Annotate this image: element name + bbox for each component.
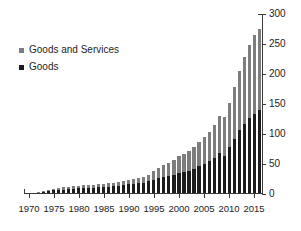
- bar-stack: [157, 168, 160, 194]
- bar-segment-goods-and-services: [182, 154, 185, 172]
- bar-stack: [203, 137, 206, 194]
- bar-stack: [213, 125, 216, 194]
- bar-segment-goods-and-services: [223, 117, 226, 155]
- bar-segment-goods-and-services: [192, 147, 195, 169]
- plot-area: [26, 14, 262, 194]
- y-axis-tick: [262, 134, 266, 135]
- x-axis-tick: [54, 194, 55, 198]
- bar-stack: [182, 154, 185, 194]
- bar-stack: [152, 171, 155, 194]
- y-axis-tick-label: 200: [269, 69, 286, 79]
- bar-stack: [233, 87, 236, 194]
- bar-segment-goods-and-services: [258, 29, 261, 110]
- bar-segment-goods: [182, 172, 185, 194]
- y-axis-tick: [262, 44, 266, 45]
- x-axis-tick-label: 1995: [143, 204, 164, 214]
- x-axis-tick: [229, 194, 230, 198]
- legend-swatch-icon: [19, 48, 24, 53]
- x-axis-tick-label: 1990: [118, 204, 139, 214]
- bar-segment-goods: [152, 180, 155, 194]
- bar-segment-goods: [243, 124, 246, 194]
- y-axis-tick: [262, 14, 266, 15]
- bar-segment-goods: [248, 118, 251, 194]
- bar-stack: [218, 116, 221, 194]
- x-axis-tick: [29, 194, 30, 198]
- bar-segment-goods-and-services: [238, 71, 241, 130]
- bar-segment-goods-and-services: [248, 45, 251, 118]
- y-axis-tick: [262, 194, 266, 195]
- bar-stack: [137, 178, 140, 194]
- bar-segment-goods: [238, 130, 241, 194]
- bar-segment-goods: [208, 161, 211, 194]
- bar-stack: [127, 180, 130, 194]
- bar-segment-goods-and-services: [197, 142, 200, 166]
- bar-segment-goods-and-services: [228, 103, 231, 147]
- y-axis-tick-label: 150: [269, 99, 286, 109]
- bar-segment-goods-and-services: [208, 132, 211, 161]
- bar-segment-goods: [228, 147, 231, 194]
- bar-segment-goods: [187, 171, 190, 194]
- legend-item-label: Goods and Services: [29, 45, 119, 55]
- bar-stack: [162, 165, 165, 194]
- x-axis-tick: [79, 194, 80, 198]
- bar-stack: [223, 117, 226, 194]
- x-axis-tick: [254, 194, 255, 198]
- bar-segment-goods-and-services: [243, 57, 246, 124]
- bar-stack: [177, 156, 180, 194]
- bar-segment-goods-and-services: [203, 137, 206, 164]
- bar-segment-goods: [233, 139, 236, 194]
- bar-segment-goods: [167, 176, 170, 194]
- bar-segment-goods-and-services: [253, 35, 256, 114]
- bar-segment-goods-and-services: [167, 163, 170, 176]
- bar-segment-goods: [172, 175, 175, 194]
- x-axis-tick-label: 1985: [93, 204, 114, 214]
- bar-stack: [253, 35, 256, 194]
- bar-segment-goods-and-services: [218, 116, 221, 153]
- bars-layer: [26, 14, 262, 194]
- bar-segment-goods-and-services: [157, 168, 160, 178]
- bar-stack: [132, 179, 135, 194]
- y-axis-tick: [262, 74, 266, 75]
- y-axis-tick-label: 300: [269, 9, 286, 19]
- bar-stack: [192, 147, 195, 194]
- bar-segment-goods: [197, 166, 200, 194]
- x-axis-tick-label: 1980: [68, 204, 89, 214]
- bar-segment-goods-and-services: [162, 165, 165, 177]
- y-axis-tick-label: 0: [269, 189, 275, 199]
- bar-segment-goods-and-services: [152, 171, 155, 179]
- bar-segment-goods-and-services: [147, 175, 150, 182]
- bar-chart: 050100150200250300 197019751980198519901…: [0, 0, 301, 231]
- bar-segment-goods: [203, 164, 206, 194]
- bar-stack: [208, 132, 211, 194]
- bar-segment-goods: [192, 169, 195, 194]
- bar-stack: [228, 103, 231, 194]
- bar-segment-goods-and-services: [177, 156, 180, 173]
- x-axis-tick: [179, 194, 180, 198]
- x-axis-tick: [104, 194, 105, 198]
- x-axis-tick-label: 2000: [168, 204, 189, 214]
- bar-segment-goods: [223, 156, 226, 194]
- legend-item-goods: Goods: [19, 60, 119, 74]
- bar-stack: [147, 175, 150, 194]
- bar-stack: [172, 160, 175, 194]
- bar-segment-goods: [213, 158, 216, 194]
- bar-stack: [258, 29, 261, 194]
- bar-segment-goods: [162, 177, 165, 194]
- x-axis-tick-label: 1975: [43, 204, 64, 214]
- x-axis-tick: [129, 194, 130, 198]
- x-axis-tick: [204, 194, 205, 198]
- bar-segment-goods: [253, 114, 256, 194]
- bar-stack: [197, 142, 200, 194]
- y-axis-tick: [262, 104, 266, 105]
- x-axis-tick-label: 2005: [193, 204, 214, 214]
- y-axis-tick-label: 100: [269, 129, 286, 139]
- bar-stack: [238, 71, 241, 194]
- y-axis-tick-label: 250: [269, 39, 286, 49]
- bar-segment-goods: [157, 178, 160, 194]
- bar-stack: [142, 177, 145, 194]
- bar-segment-goods-and-services: [187, 151, 190, 171]
- bar-stack: [248, 45, 251, 194]
- bar-stack: [187, 151, 190, 194]
- chart-legend: Goods and Services Goods: [19, 43, 119, 77]
- y-axis-tick: [262, 164, 266, 165]
